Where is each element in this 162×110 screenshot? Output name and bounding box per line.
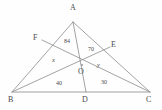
angle-label-70: 70 — [88, 46, 94, 52]
diagram-canvas — [0, 0, 162, 110]
vertex-label-C: C — [146, 96, 151, 104]
vertex-label-B: B — [8, 96, 13, 104]
vertex-label-F: F — [33, 34, 37, 42]
geometry-figure: A B C D E F O 84 70 x y 40 30 — [0, 0, 162, 110]
vertex-dot-O — [81, 64, 83, 66]
angle-label-x: x — [52, 57, 55, 64]
segment-side-AC — [73, 22, 150, 92]
angle-label-40: 40 — [56, 80, 62, 86]
vertex-label-D: D — [82, 96, 88, 104]
angle-label-y: y — [97, 62, 100, 69]
angle-label-84: 84 — [64, 38, 70, 44]
angle-label-30: 30 — [101, 79, 107, 85]
segment-side-AB — [12, 22, 73, 92]
vertex-label-O: O — [78, 68, 84, 76]
vertex-label-A: A — [70, 4, 76, 12]
vertex-label-E: E — [111, 41, 116, 49]
